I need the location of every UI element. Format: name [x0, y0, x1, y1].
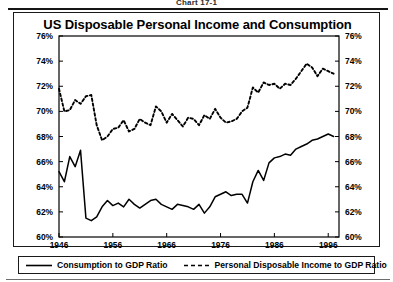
figure-caption: Chart 17-1 — [0, 0, 393, 7]
svg-text:74%: 74% — [345, 56, 362, 66]
svg-text:70%: 70% — [36, 106, 53, 116]
chart-legend: Consumption to GDP Ratio Personal Dispos… — [18, 256, 375, 274]
svg-text:64%: 64% — [345, 182, 362, 192]
plot-area: 60%62%64%66%68%70%72%74%76% 60%62%64%66%… — [14, 13, 381, 248]
chart-panel: US Disposable Personal Income and Consum… — [13, 12, 380, 247]
svg-text:66%: 66% — [36, 157, 53, 167]
svg-text:64%: 64% — [36, 182, 53, 192]
svg-text:1946: 1946 — [50, 240, 69, 248]
dashed-line-swatch — [184, 262, 210, 269]
series-disposable-income-line — [59, 64, 334, 141]
legend-item-consumption: Consumption to GDP Ratio — [26, 261, 168, 270]
svg-text:72%: 72% — [36, 81, 53, 91]
legend-label-disposable-income: Personal Disposable Income to GDP Ratio — [215, 261, 387, 270]
svg-text:68%: 68% — [345, 132, 362, 142]
svg-text:1956: 1956 — [104, 240, 123, 248]
svg-text:1986: 1986 — [265, 240, 284, 248]
figure-container: Chart 17-1 US Disposable Personal Income… — [0, 0, 393, 282]
svg-text:60%: 60% — [345, 232, 362, 242]
x-axis: 194619561966197619861996 — [50, 233, 338, 248]
legend-label-consumption: Consumption to GDP Ratio — [57, 261, 168, 270]
svg-text:70%: 70% — [345, 106, 362, 116]
page-divider — [6, 279, 390, 280]
svg-text:62%: 62% — [36, 207, 53, 217]
svg-text:72%: 72% — [345, 81, 362, 91]
svg-text:66%: 66% — [345, 157, 362, 167]
svg-text:1966: 1966 — [157, 240, 176, 248]
data-series-group — [59, 64, 334, 221]
svg-text:68%: 68% — [36, 132, 53, 142]
svg-text:76%: 76% — [345, 31, 362, 41]
legend-item-disposable-income: Personal Disposable Income to GDP Ratio — [184, 261, 387, 270]
svg-text:74%: 74% — [36, 56, 53, 66]
solid-line-swatch — [26, 262, 52, 269]
svg-text:76%: 76% — [36, 31, 53, 41]
series-consumption-line — [59, 134, 334, 221]
svg-text:1996: 1996 — [319, 240, 338, 248]
svg-text:1976: 1976 — [211, 240, 230, 248]
chart-svg: 60%62%64%66%68%70%72%74%76% 60%62%64%66%… — [14, 13, 381, 248]
svg-text:62%: 62% — [345, 207, 362, 217]
caption-divider — [8, 8, 388, 10]
